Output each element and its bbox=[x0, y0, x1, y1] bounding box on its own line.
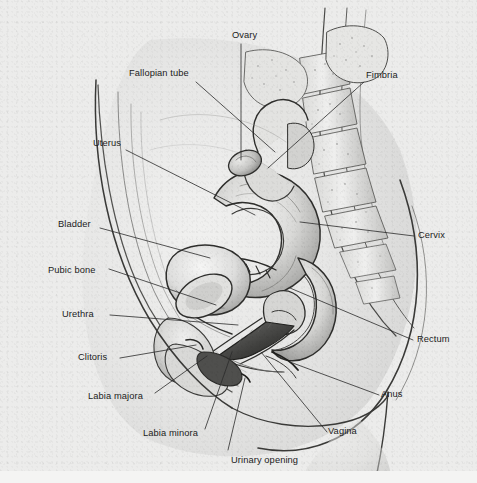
label-uterus: Uterus bbox=[93, 138, 121, 149]
label-cervix: Cervix bbox=[418, 230, 445, 241]
anatomy-illustration bbox=[0, 0, 477, 483]
label-vagina: Vagina bbox=[328, 426, 357, 437]
label-clitoris: Clitoris bbox=[78, 352, 107, 363]
label-labia-minora: Labia minora bbox=[143, 428, 198, 439]
label-ovary: Ovary bbox=[232, 30, 257, 41]
label-anus: Anus bbox=[381, 389, 403, 400]
label-fallopian-tube: Fallopian tube bbox=[129, 68, 189, 79]
label-bladder: Bladder bbox=[58, 219, 91, 230]
label-pubic-bone: Pubic bone bbox=[48, 265, 96, 276]
label-fimbria: Fimbria bbox=[366, 70, 398, 81]
label-rectum: Rectum bbox=[417, 334, 450, 345]
label-urinary-opening: Urinary opening bbox=[231, 455, 298, 466]
label-labia-majora: Labia majora bbox=[88, 391, 143, 402]
label-urethra: Urethra bbox=[62, 309, 94, 320]
anatomical-figure: OvaryFimbriaFallopian tubeUterusBladderC… bbox=[0, 0, 477, 483]
bottom-margin-strip bbox=[0, 471, 477, 483]
